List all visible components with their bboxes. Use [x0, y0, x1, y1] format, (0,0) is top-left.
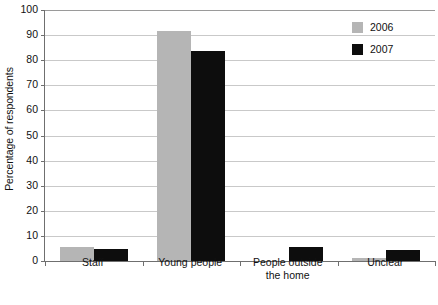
y-tick-mark-70	[41, 85, 45, 86]
y-tick-label-90: 90	[5, 28, 38, 40]
bar-group	[60, 10, 128, 261]
x-axis-label: Staff	[44, 256, 142, 269]
y-tick-label-60: 60	[5, 103, 38, 115]
y-tick-label-10: 10	[5, 229, 38, 241]
y-tick-label-30: 30	[5, 179, 38, 191]
x-axis-label-line: People outside	[239, 256, 337, 269]
y-tick-label-50: 50	[5, 129, 38, 141]
bar[interactable]	[157, 31, 191, 261]
x-axis-end-tick	[435, 261, 436, 266]
y-tick-mark-50	[41, 136, 45, 137]
y-tick-mark-20	[41, 211, 45, 212]
y-tick-mark-40	[41, 161, 45, 162]
legend-item-2007[interactable]: 2007	[352, 38, 422, 60]
bar[interactable]	[191, 51, 225, 261]
x-axis-label-line: the home	[239, 269, 337, 282]
chart-legend: 2006 2007	[352, 16, 422, 60]
x-axis-label-line: Young people	[142, 256, 240, 269]
cropped-title-strip	[0, 0, 438, 7]
x-axis-label-line: Staff	[44, 256, 142, 269]
x-axis-label: Young people	[142, 256, 240, 269]
x-axis-label-line: Unclear	[337, 256, 435, 269]
legend-swatch-2007-icon	[352, 44, 363, 55]
y-tick-label-80: 80	[5, 53, 38, 65]
x-axis-label: People outsidethe home	[239, 256, 337, 281]
legend-label-2007: 2007	[370, 43, 393, 55]
bar-chart-figure: Percentage of respondents 10090807060504…	[0, 0, 438, 305]
y-tick-mark-30	[41, 186, 45, 187]
legend-swatch-2006-icon	[352, 22, 363, 33]
y-tick-mark-90	[41, 35, 45, 36]
x-axis-label: Unclear	[337, 256, 435, 269]
bar-group	[255, 10, 323, 261]
y-tick-mark-60	[41, 110, 45, 111]
y-tick-mark-10	[41, 236, 45, 237]
y-tick-label-100: 100	[5, 3, 38, 15]
y-tick-label-20: 20	[5, 204, 38, 216]
y-tick-label-40: 40	[5, 154, 38, 166]
y-tick-mark-100	[41, 10, 45, 11]
y-tick-label-70: 70	[5, 78, 38, 90]
legend-label-2006: 2006	[370, 21, 393, 33]
legend-item-2006[interactable]: 2006	[352, 16, 422, 38]
y-tick-label-0: 0	[5, 254, 38, 266]
y-tick-mark-80	[41, 60, 45, 61]
bar-group	[157, 10, 225, 261]
